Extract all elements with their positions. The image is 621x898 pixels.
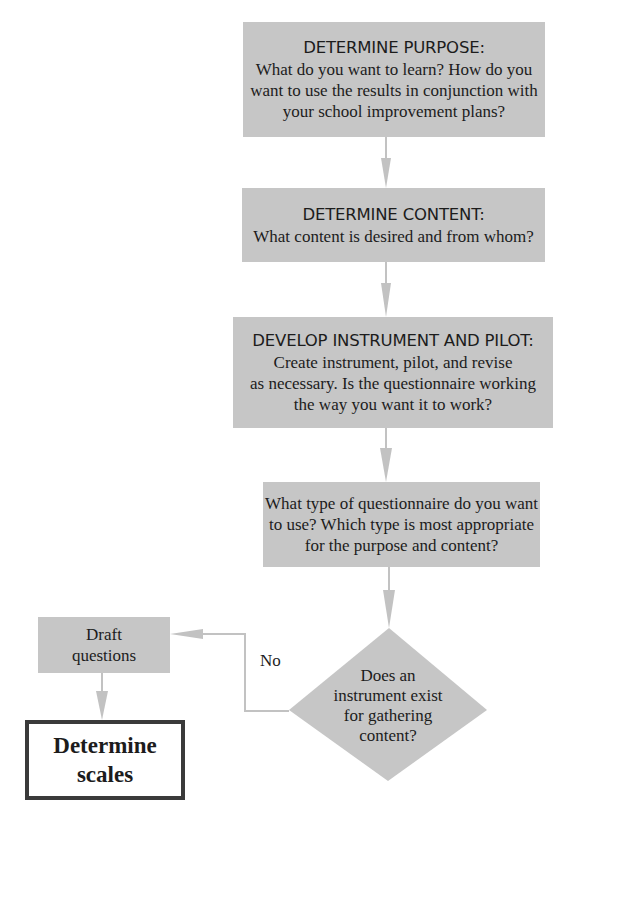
step-body: What do you want to learn? How do you wa…	[250, 59, 538, 122]
arrow-content-to-develop	[381, 262, 391, 317]
step-develop-instrument: DEVELOP INSTRUMENT AND PILOT: Create ins…	[233, 317, 553, 428]
step-determine-purpose: DETERMINE PURPOSE: What do you want to l…	[243, 22, 545, 137]
decision-text: Does an instrument exist for gathering c…	[320, 666, 456, 746]
arrow-draft-to-scales	[96, 673, 108, 720]
step-determine-content: DETERMINE CONTENT: What content is desir…	[242, 188, 545, 262]
draft-questions-box: Draft questions	[38, 617, 170, 673]
step-body: What content is desired and from whom?	[253, 226, 533, 247]
step-heading: DEVELOP INSTRUMENT AND PILOT:	[252, 330, 533, 352]
step-body: Create instrument, pilot, and revise as …	[250, 352, 536, 415]
step-heading: DETERMINE PURPOSE:	[303, 37, 485, 59]
step-heading: DETERMINE CONTENT:	[302, 204, 484, 226]
arrow-purpose-to-content	[381, 137, 391, 188]
arrow-type-to-decision	[383, 567, 395, 628]
arrow-develop-to-type	[380, 428, 392, 482]
step-questionnaire-type: What type of questionnaire do you want t…	[263, 482, 540, 567]
step-body: What type of questionnaire do you want t…	[265, 493, 538, 556]
draft-text: Draft questions	[72, 624, 136, 666]
no-label: No	[260, 651, 281, 671]
determine-scales-box: Determine scales	[25, 720, 185, 800]
